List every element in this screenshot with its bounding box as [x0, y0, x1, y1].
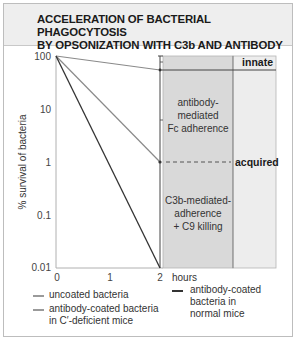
xtick-1: 1: [107, 272, 113, 283]
innate-label: innate: [242, 56, 273, 68]
ytick-100: 100: [34, 51, 51, 62]
series-uncoated-line: [56, 56, 160, 70]
upper-box-line-2: mediated: [177, 110, 218, 121]
ytick-10: 10: [40, 104, 52, 115]
acquired-point: [158, 160, 161, 163]
ytick-0.01: 0.01: [32, 262, 52, 273]
lower-box-line-2: adherence: [174, 208, 222, 219]
acquired-label: acquired: [235, 156, 279, 168]
y-axis-label: % survival of bacteria: [17, 114, 28, 209]
legend-normal-line-1: antibody-coated: [190, 284, 261, 296]
upper-box-line-1: antibody-: [177, 97, 218, 108]
legend-uncoated: uncoated bacteria: [49, 289, 129, 301]
upper-box-line-3: Fc adherence: [167, 123, 229, 134]
legend-normal-line-2: bacteria in: [190, 296, 261, 308]
legend-deficient: antibody-coated bacteria in C′-deficient…: [49, 303, 159, 327]
xtick-0: 0: [54, 272, 60, 283]
lower-box-line-1: C3b-mediated-: [165, 195, 231, 206]
xtick-2: 2: [157, 272, 163, 283]
legend-deficient-line-1: antibody-coated bacteria: [49, 303, 159, 315]
legend-normal-line-3: normal mice: [190, 308, 261, 320]
legend-swatch-deficient: [33, 309, 44, 311]
x-axis-label: hours: [172, 272, 197, 283]
innate-point: [159, 69, 162, 72]
legend-deficient-line-2: in C′-deficient mice: [49, 315, 159, 327]
ytick-1: 1: [45, 157, 51, 168]
ytick-0.1: 0.1: [37, 210, 51, 221]
legend-normal: antibody-coated bacteria in normal mice: [190, 284, 261, 320]
series-normal-line: [56, 56, 160, 268]
legend-swatch-uncoated: [33, 295, 44, 297]
legend-swatch-normal: [172, 290, 183, 292]
series-deficient-line: [56, 56, 160, 162]
lower-box-line-3: + C9 killing: [173, 221, 222, 232]
